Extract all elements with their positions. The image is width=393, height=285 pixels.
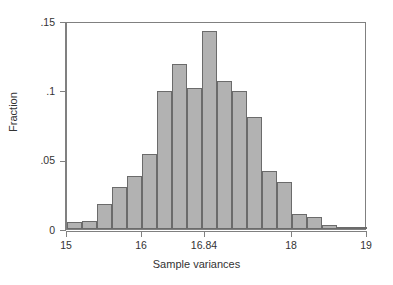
- histogram-bar: [172, 64, 187, 229]
- plot-area: [66, 22, 366, 230]
- histogram-bar: [142, 154, 157, 229]
- histogram-bar: [247, 117, 262, 229]
- histogram-bars: [67, 23, 365, 229]
- y-axis-title: Fraction: [7, 67, 19, 157]
- y-axis-tick-label: .15: [15, 17, 55, 27]
- histogram-bar: [82, 221, 97, 229]
- x-axis-tick: [66, 232, 67, 237]
- y-axis-tick-label: .1: [15, 86, 55, 96]
- histogram-bar: [262, 171, 277, 229]
- y-axis-tick: [60, 22, 65, 23]
- histogram-bar: [232, 91, 247, 229]
- histogram-figure: Fraction 0.05.1.15 151616.841819 Sample …: [0, 0, 393, 285]
- x-axis-line: [66, 231, 367, 232]
- histogram-bar: [97, 204, 112, 229]
- x-axis-tick-label: 16.84: [174, 240, 234, 251]
- y-axis-tick-label: .05: [15, 155, 55, 165]
- x-axis-tick: [366, 232, 367, 237]
- x-axis-tick-label: 15: [36, 240, 96, 251]
- histogram-bar: [157, 91, 172, 229]
- histogram-bar: [292, 214, 307, 229]
- histogram-bar: [127, 176, 142, 229]
- y-axis-tick-label: 0: [15, 225, 55, 235]
- histogram-bar: [352, 227, 367, 229]
- x-axis-tick-label: 16: [111, 240, 171, 251]
- x-axis-tick-label: 19: [336, 240, 393, 251]
- x-axis-title: Sample variances: [0, 258, 393, 270]
- histogram-bar: [322, 225, 337, 229]
- x-axis-tick: [291, 232, 292, 237]
- x-axis-tick: [204, 232, 205, 237]
- x-axis-tick-label: 18: [261, 240, 321, 251]
- y-axis-tick: [60, 161, 65, 162]
- histogram-bar: [277, 182, 292, 229]
- histogram-bar: [112, 187, 127, 229]
- y-axis-tick: [60, 230, 65, 231]
- y-axis-tick: [60, 91, 65, 92]
- histogram-bar: [187, 88, 202, 229]
- x-axis-tick: [141, 232, 142, 237]
- histogram-bar: [202, 31, 217, 229]
- histogram-bar: [217, 81, 232, 229]
- histogram-bar: [337, 227, 352, 229]
- histogram-bar: [307, 217, 322, 229]
- histogram-bar: [67, 222, 82, 229]
